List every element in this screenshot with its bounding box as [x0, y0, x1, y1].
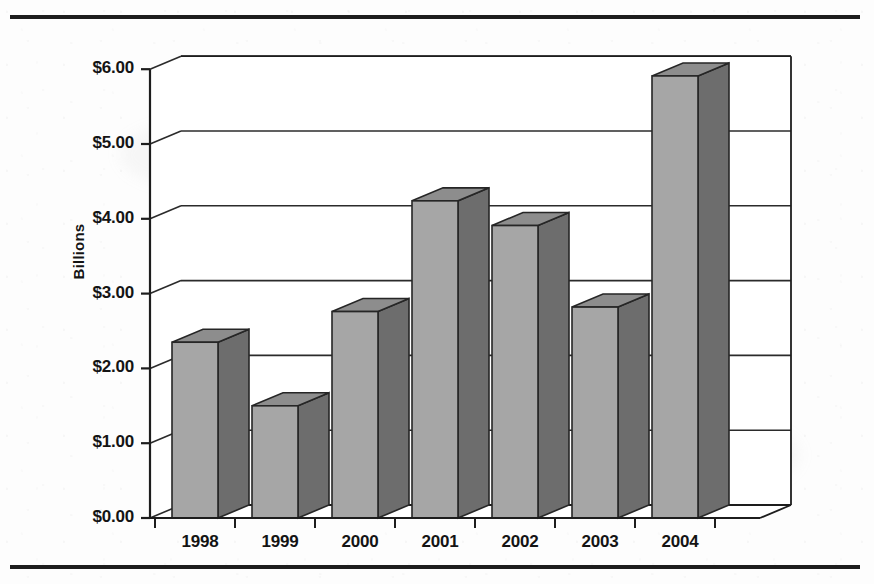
x-axis-tick-label: 2003: [555, 532, 645, 552]
bar-front-face: [572, 307, 618, 518]
chart-page: Billions $0.00$1.00$2.00$3.00$4.00$5.00$…: [0, 0, 874, 584]
x-axis-tick-label: 1999: [235, 532, 325, 552]
y-axis-tick-label: $5.00: [38, 133, 134, 153]
x-axis-tick-label: 2002: [475, 532, 565, 552]
bar-1998[interactable]: [172, 329, 249, 518]
y-axis-tick-label: $1.00: [38, 432, 134, 452]
x-axis-tick-label: 1998: [155, 532, 245, 552]
bar-side-face: [378, 299, 409, 518]
bar-side-face: [218, 329, 249, 518]
y-axis-tick-label: $3.00: [38, 283, 134, 303]
bar-2002[interactable]: [492, 213, 569, 518]
x-axis-tick-label: 2000: [315, 532, 405, 552]
bar-2000[interactable]: [332, 299, 409, 518]
bar-2003[interactable]: [572, 294, 649, 518]
y-axis-tick-label: $6.00: [38, 58, 134, 78]
x-axis-tick-label: 2001: [395, 532, 485, 552]
bar-side-face: [538, 213, 569, 518]
bar-side-face: [618, 294, 649, 518]
y-axis-tick-label: $2.00: [38, 357, 134, 377]
bar-front-face: [412, 201, 458, 518]
bar-side-face: [458, 188, 489, 518]
y-axis-tick-label: $4.00: [38, 208, 134, 228]
bar-2001[interactable]: [412, 188, 489, 518]
bar-front-face: [492, 226, 538, 518]
bar-front-face: [332, 312, 378, 518]
y-axis-tick-label: $0.00: [38, 507, 134, 527]
bar-front-face: [172, 342, 218, 518]
bar-side-face: [298, 393, 329, 518]
bar-1999[interactable]: [252, 393, 329, 518]
bar-2004[interactable]: [652, 63, 729, 518]
bar-side-face: [698, 63, 729, 518]
x-axis-tick-label: 2004: [635, 532, 725, 552]
bar-front-face: [252, 406, 298, 518]
bar-front-face: [652, 76, 698, 518]
